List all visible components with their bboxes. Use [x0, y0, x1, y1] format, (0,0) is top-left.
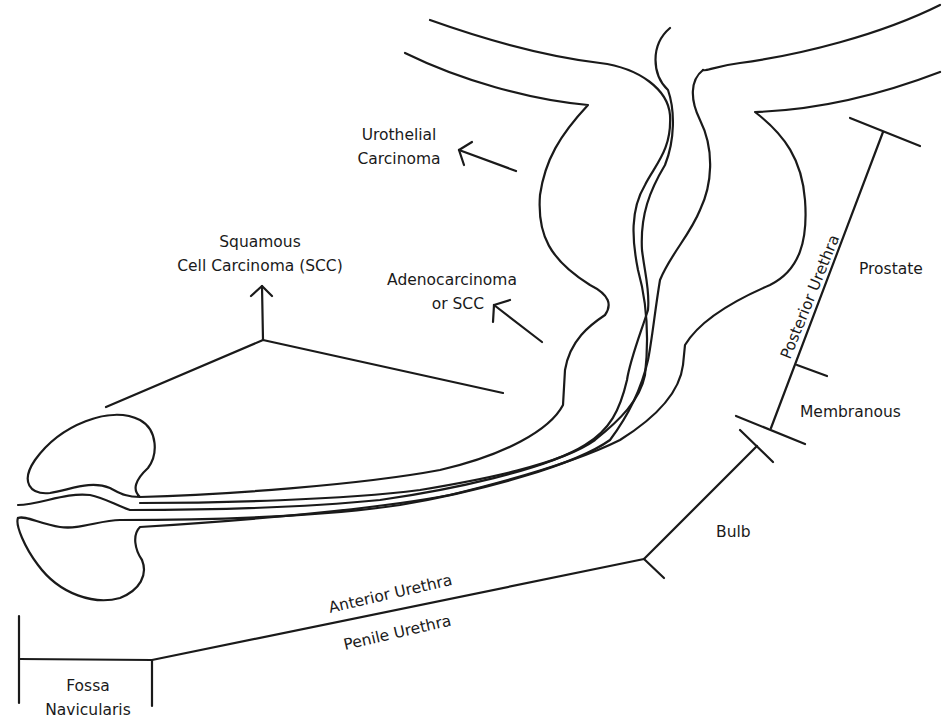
adeno-label-line1: Adenocarcinoma: [387, 271, 517, 289]
bladder-wall-right-outer: [703, 5, 940, 70]
urothelial-label-line1: Urothelial: [362, 126, 437, 144]
membranous-label: Membranous: [800, 403, 901, 421]
adeno-label-line2: or SCC: [432, 295, 484, 313]
prostate-label: Prostate: [859, 260, 923, 278]
fossa-label-line2: Navicularis: [45, 701, 130, 719]
posterior-urethra-label: Posterior Urethra: [777, 232, 843, 361]
bladder-wall-left-inner: [28, 53, 609, 497]
urethra-diagram: Urothelial Carcinoma Squamous Cell Carci…: [0, 0, 946, 726]
fossa-label-line1: Fossa: [66, 677, 110, 695]
squamous-label-line1: Squamous: [219, 233, 300, 251]
squamous-label-line2: Cell Carcinoma (SCC): [177, 257, 343, 275]
segment-brackets: [19, 118, 920, 706]
bulb-label: Bulb: [716, 523, 751, 541]
urethra-wall-upper: [18, 28, 673, 510]
adeno-arrow-icon: [493, 300, 542, 342]
urothelial-arrow-icon: [459, 142, 516, 171]
urothelial-label-line2: Carcinoma: [357, 150, 440, 168]
